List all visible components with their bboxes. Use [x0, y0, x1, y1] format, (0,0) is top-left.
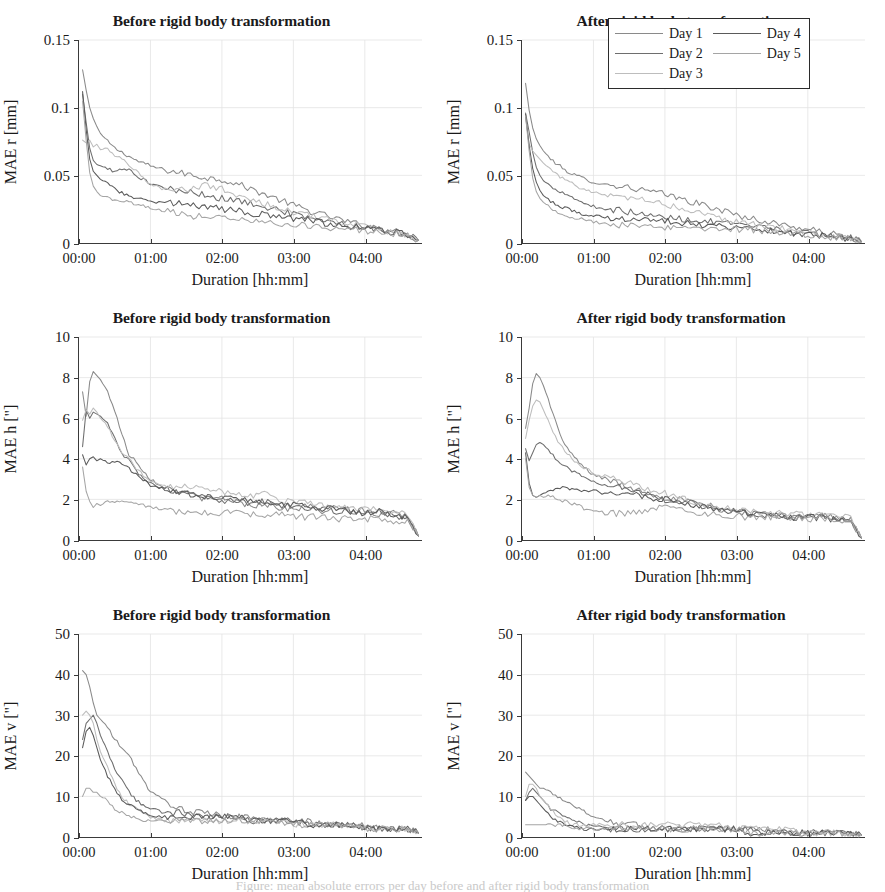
series-line-day-4 — [83, 455, 419, 536]
series-line-day-3 — [83, 140, 419, 240]
series-line-day-3 — [526, 400, 862, 538]
x-tick-label: 04:00 — [792, 250, 825, 267]
legend-label: Day 2 — [669, 46, 703, 62]
y-tick-mark — [517, 541, 522, 542]
x-tick-mark — [79, 833, 80, 838]
x-tick-mark — [594, 833, 595, 838]
y-tick-mark — [74, 337, 79, 338]
legend-entry-day-5: Day 5 — [713, 44, 801, 63]
y-tick-mark — [517, 176, 522, 177]
x-tick-mark — [737, 239, 738, 244]
x-tick-mark — [522, 239, 523, 244]
series-line-day-4 — [526, 114, 862, 242]
x-tick-mark — [79, 536, 80, 541]
y-tick-mark — [517, 797, 522, 798]
x-tick-mark — [737, 536, 738, 541]
x-tick-mark — [366, 239, 367, 244]
y-tick-mark — [74, 108, 79, 109]
series-line-day-4 — [526, 453, 862, 538]
y-tick-label: 0.05 — [44, 168, 70, 185]
y-tick-label: 0.15 — [487, 32, 513, 49]
y-tick-mark — [74, 756, 79, 757]
y-tick-label: 8 — [506, 369, 514, 386]
y-tick-mark — [74, 378, 79, 379]
x-axis-label: Duration [hh:mm] — [78, 568, 422, 586]
y-tick-mark — [74, 838, 79, 839]
figure-caption: Figure: mean absolute errors per day bef… — [0, 878, 885, 892]
y-tick-label: 30 — [498, 707, 513, 724]
series-line-day-1 — [526, 83, 862, 242]
y-tick-label: 4 — [506, 451, 514, 468]
x-tick-mark — [294, 239, 295, 244]
x-tick-label: 00:00 — [62, 844, 95, 861]
legend-line-swatch — [713, 53, 761, 54]
series-line-day-1 — [83, 70, 419, 242]
x-axis-label: Duration [hh:mm] — [521, 568, 865, 586]
y-axis-label: MAE v ["] — [445, 702, 463, 771]
x-tick-label: 01:00 — [577, 250, 610, 267]
x-tick-label: 04:00 — [349, 844, 382, 861]
series-line-day-5 — [526, 459, 862, 538]
x-tick-mark — [594, 239, 595, 244]
y-tick-mark — [517, 756, 522, 757]
plot-canvas — [79, 634, 422, 837]
legend-entry-day-2: Day 2 — [615, 44, 703, 63]
x-tick-label: 00:00 — [505, 844, 538, 861]
y-tick-mark — [74, 541, 79, 542]
y-tick-mark — [517, 244, 522, 245]
x-tick-label: 00:00 — [505, 250, 538, 267]
y-tick-label: 10 — [55, 789, 70, 806]
series-line-day-4 — [83, 91, 419, 240]
y-tick-label: 2 — [506, 492, 514, 509]
panel-mae-v-before: Before rigid body transformation MAE v [… — [0, 594, 443, 892]
x-tick-mark — [294, 833, 295, 838]
y-axis-label: MAE r [mm] — [2, 100, 20, 184]
y-tick-label: 2 — [63, 492, 71, 509]
x-tick-mark — [522, 833, 523, 838]
series-line-day-2 — [83, 94, 419, 240]
x-tick-label: 03:00 — [277, 844, 310, 861]
x-tick-label: 01:00 — [134, 844, 167, 861]
panel-title: After rigid body transformation — [443, 606, 885, 624]
series-line-day-3 — [83, 711, 419, 834]
series-line-day-5 — [83, 467, 419, 536]
figure-grid: Before rigid body transformation MAE r [… — [0, 0, 885, 892]
x-tick-mark — [222, 239, 223, 244]
y-tick-mark — [517, 419, 522, 420]
x-tick-mark — [79, 239, 80, 244]
panel-mae-h-after: After rigid body transformation MAE h ["… — [443, 297, 885, 594]
y-tick-mark — [74, 459, 79, 460]
x-tick-label: 00:00 — [505, 547, 538, 564]
y-tick-label: 20 — [498, 748, 513, 765]
x-tick-label: 02:00 — [206, 250, 239, 267]
y-tick-label: 10 — [55, 329, 70, 346]
x-tick-label: 04:00 — [349, 250, 382, 267]
y-tick-mark — [517, 716, 522, 717]
plot-area: 024681000:0001:0002:0003:0004:00 — [78, 337, 422, 541]
legend-label: Day 4 — [767, 26, 801, 42]
y-tick-mark — [517, 40, 522, 41]
plot-area: 024681000:0001:0002:0003:0004:00 — [521, 337, 865, 541]
y-tick-mark — [517, 634, 522, 635]
series-line-day-1 — [83, 671, 419, 833]
plot-canvas — [522, 634, 865, 837]
y-tick-mark — [517, 337, 522, 338]
legend-entry-empty — [713, 64, 801, 83]
legend-entry-day-3: Day 3 — [615, 64, 703, 83]
legend-line-swatch — [615, 53, 663, 54]
panel-title: Before rigid body transformation — [0, 309, 443, 327]
x-tick-label: 03:00 — [277, 547, 310, 564]
x-tick-mark — [809, 536, 810, 541]
legend-entry-day-4: Day 4 — [713, 24, 801, 43]
panel-title: Before rigid body transformation — [0, 606, 443, 624]
y-tick-mark — [517, 838, 522, 839]
y-tick-label: 30 — [55, 707, 70, 724]
x-tick-mark — [737, 833, 738, 838]
x-axis-label: Duration [hh:mm] — [78, 271, 422, 289]
legend-line-swatch — [713, 33, 761, 34]
x-tick-label: 00:00 — [62, 547, 95, 564]
y-tick-mark — [74, 40, 79, 41]
x-tick-label: 04:00 — [792, 844, 825, 861]
y-tick-mark — [74, 419, 79, 420]
panel-mae-v-after: After rigid body transformation MAE v ["… — [443, 594, 885, 892]
